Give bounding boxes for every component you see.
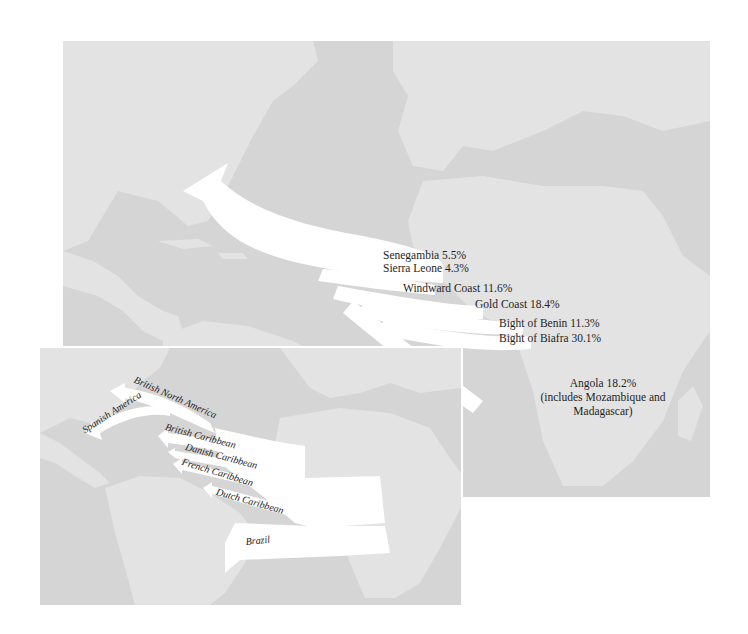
landmass-caribbean-islands [158,239,248,259]
inset-landmass-europe [280,348,461,398]
label-windward-coast: Windward Coast 11.6% [403,281,512,295]
label-angola-value: Angola 18.2% [570,377,636,389]
label-sierra-leone: Sierra Leone 4.3% [383,261,469,275]
label-senegambia: Senegambia 5.5% [383,248,466,262]
landmass-central-america [63,251,183,341]
label-bight-of-biafra: Bight of Biafra 30.1% [499,331,601,345]
label-gold-coast: Gold Coast 18.4% [475,297,560,311]
landmass-madagascar [678,386,703,441]
label-bight-of-benin: Bight of Benin 11.3% [499,316,600,330]
inset-landmass-central-america [40,433,110,488]
label-angola: Angola 18.2% (includes Mozambique and Ma… [533,376,673,418]
inset-map-destinations: British North America Spanish America Br… [40,346,463,605]
label-angola-note: (includes Mozambique and Madagascar) [540,391,665,417]
